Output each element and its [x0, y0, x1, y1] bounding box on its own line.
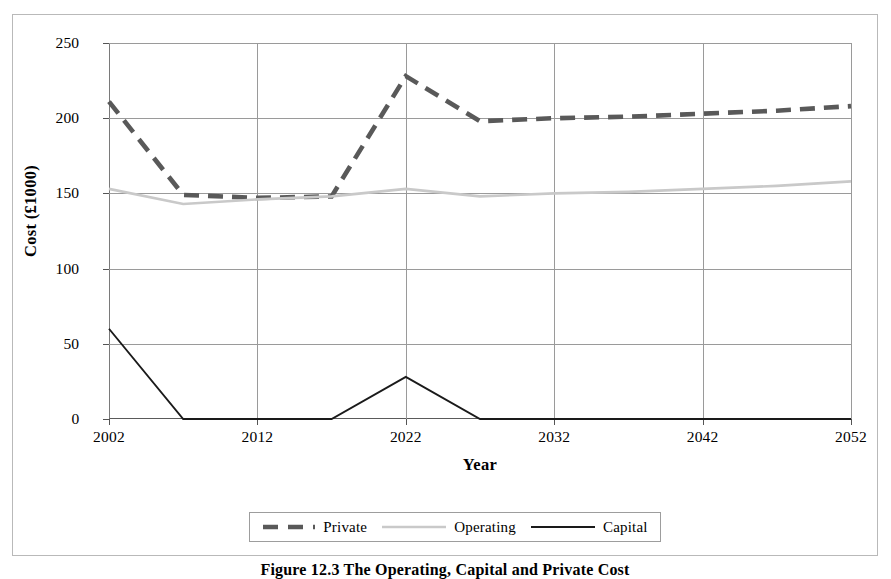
x-tick-label: 2032: [538, 428, 570, 446]
legend-swatch-operating-icon: [381, 522, 447, 532]
x-tick-mark: [851, 419, 852, 425]
legend-label: Capital: [603, 519, 648, 536]
y-tick-label: 200: [55, 109, 79, 127]
figure-frame: Cost (£1000) 050100150200250 20022012202…: [12, 14, 878, 556]
legend-item-operating[interactable]: Operating: [374, 519, 523, 536]
y-tick-label: 100: [55, 260, 79, 278]
legend-swatch-private-icon: [262, 522, 316, 532]
series-lines: [109, 43, 851, 419]
y-tick-label: 0: [71, 410, 79, 428]
chart-area: Cost (£1000) 050100150200250 20022012202…: [13, 15, 879, 485]
x-tick-label: 2022: [390, 428, 422, 446]
y-tick-label: 50: [63, 335, 79, 353]
x-tick-mark: [109, 419, 110, 425]
series-line-operating: [109, 181, 851, 204]
y-axis-title: Cost (£1000): [21, 165, 41, 257]
x-tick-label: 2002: [93, 428, 125, 446]
x-tick-label: 2042: [687, 428, 719, 446]
gridline-vertical: [851, 43, 852, 419]
chart-legend: PrivateOperatingCapital: [249, 512, 661, 542]
series-line-private: [109, 76, 851, 198]
legend-swatch-capital-icon: [530, 522, 596, 532]
plot-area: 050100150200250 200220122022203220422052: [109, 43, 851, 419]
series-line-capital: [109, 329, 851, 419]
legend-label: Private: [323, 519, 367, 536]
x-tick-label: 2052: [835, 428, 867, 446]
x-tick-mark: [406, 419, 407, 425]
x-tick-label: 2012: [241, 428, 273, 446]
legend-item-capital[interactable]: Capital: [523, 519, 655, 536]
x-axis-title: Year: [463, 455, 498, 475]
figure-caption: Figure 12.3 The Operating, Capital and P…: [260, 561, 629, 579]
y-tick-label: 250: [55, 34, 79, 52]
legend-label: Operating: [454, 519, 516, 536]
y-tick-label: 150: [55, 184, 79, 202]
legend-item-private[interactable]: Private: [255, 519, 374, 536]
